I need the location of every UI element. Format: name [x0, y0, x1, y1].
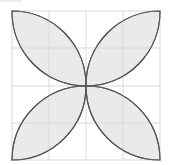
diagram-canvas [0, 0, 169, 165]
flower-grid-figure [0, 0, 169, 165]
